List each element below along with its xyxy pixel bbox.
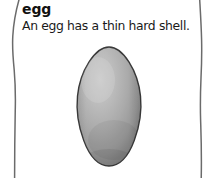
entry-description: An egg has a thin hard shell. xyxy=(22,18,198,33)
egg-illustration xyxy=(68,44,150,172)
dictionary-entry-page: egg An egg has a thin hard shell. xyxy=(0,0,214,178)
left-wavy-rule xyxy=(13,0,20,178)
page-title: egg xyxy=(22,1,198,17)
egg-shading xyxy=(68,44,150,172)
entry-text-block: egg An egg has a thin hard shell. xyxy=(22,1,198,33)
right-wavy-rule xyxy=(200,0,202,178)
